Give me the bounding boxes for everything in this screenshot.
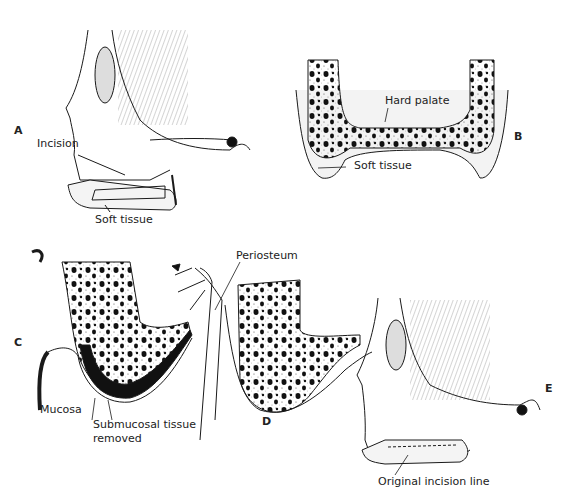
label-original-incision-line: Original incision line bbox=[378, 475, 490, 488]
panel-letter-b: B bbox=[514, 130, 522, 143]
label-soft-tissue-a: Soft tissue bbox=[95, 213, 153, 226]
label-periosteum: Periosteum bbox=[236, 249, 298, 262]
panel-letter-c: C bbox=[14, 336, 22, 349]
label-removed: removed bbox=[93, 432, 142, 445]
label-incision: Incision bbox=[37, 137, 79, 150]
label-mucosa: Mucosa bbox=[40, 403, 82, 416]
panel-d-section bbox=[172, 262, 372, 440]
label-hard-palate: Hard palate bbox=[385, 94, 449, 107]
panel-letter-e: E bbox=[545, 382, 553, 395]
panel-letter-d: D bbox=[262, 415, 271, 428]
panel-e-skull bbox=[357, 298, 540, 475]
panel-letter-a: A bbox=[14, 124, 23, 137]
panel-a-skull bbox=[66, 30, 250, 212]
label-soft-tissue-b: Soft tissue bbox=[354, 159, 412, 172]
label-submucosal-tissue: Submucosal tissue bbox=[93, 418, 196, 431]
panel-c-section bbox=[32, 251, 192, 420]
